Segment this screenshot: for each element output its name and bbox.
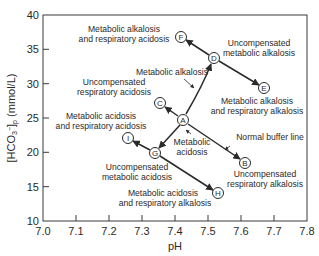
annotation-a-to-g-line2: acidosis xyxy=(176,147,207,157)
annotation-g-line2: metabolic acidosis xyxy=(102,172,172,182)
arrow-g-to-i xyxy=(133,141,150,150)
svg-text:C: C xyxy=(157,99,163,108)
x-tick-label: 7.0 xyxy=(35,225,50,237)
annotation-f-line2: and respiratory acidosis xyxy=(79,34,170,44)
y-tick-label: 35 xyxy=(27,43,39,55)
node-i: I xyxy=(123,133,134,144)
annotation-b-line1: Uncompensated xyxy=(234,169,297,179)
annotation-h-line1: Metabolic acidosis xyxy=(128,188,198,198)
x-tick-label: 7.7 xyxy=(266,225,281,237)
svg-text:E: E xyxy=(261,84,266,93)
y-tick-label: 15 xyxy=(27,181,39,193)
annotation-i-line2: and respiratory acidosis xyxy=(56,121,147,131)
node-h: H xyxy=(213,188,224,199)
svg-text:F: F xyxy=(179,33,184,42)
node-a: A xyxy=(178,115,189,126)
svg-text:B: B xyxy=(242,159,247,168)
x-tick-labels: 7.0 7.1 7.2 7.3 7.4 7.5 7.6 7.7 7.8 xyxy=(35,225,314,237)
node-b: B xyxy=(240,158,251,169)
node-c: C xyxy=(155,98,166,109)
arrow-d-to-e xyxy=(219,61,259,85)
node-f: F xyxy=(176,32,187,43)
annotation-g-line1: Uncompensated xyxy=(106,162,169,172)
x-axis-title: pH xyxy=(168,240,182,252)
y-axis-title: [HCO3−]p (mmol/L) xyxy=(5,74,19,163)
svg-text:D: D xyxy=(211,54,217,63)
annotation-a-to-d: Metabolic alkalosis xyxy=(136,67,208,77)
node-e: E xyxy=(259,83,270,94)
y-tick-label: 30 xyxy=(27,78,39,90)
y-axis xyxy=(43,49,49,186)
y-tick-label: 25 xyxy=(27,112,39,124)
x-tick-label: 7.3 xyxy=(134,225,149,237)
annotation-d-line1: Uncompensated xyxy=(228,38,291,48)
acid-base-diagram: 40 35 30 25 20 15 10 7.0 7.1 7.2 7.3 7.4… xyxy=(0,0,319,256)
annotation-a-to-g-line1: Metabolic xyxy=(174,137,211,147)
x-tick-label: 7.2 xyxy=(101,225,116,237)
y-tick-labels: 40 35 30 25 20 15 10 xyxy=(27,9,39,227)
annotation-d-line2: metabolic alkalosis xyxy=(223,48,295,58)
annotation-c-line2: respiratory acidosis xyxy=(77,87,151,97)
arrow-d-to-f xyxy=(186,40,209,55)
svg-text:H: H xyxy=(215,189,221,198)
arrow-a-to-c xyxy=(165,107,178,116)
annotation-b-line2: respiratory alkalosis xyxy=(227,179,303,189)
svg-text:A: A xyxy=(180,116,186,125)
node-d: D xyxy=(209,53,220,64)
x-tick-label: 7.6 xyxy=(233,225,248,237)
annotation-h-line2: and respiratory alkalosis xyxy=(119,198,212,208)
x-tick-label: 7.5 xyxy=(200,225,215,237)
annotation-e-line2: and respiratory alkalosis xyxy=(211,106,304,116)
x-tick-label: 7.1 xyxy=(68,225,83,237)
x-tick-label: 7.4 xyxy=(167,225,182,237)
annotation-i-line1: Metabolic acidosis xyxy=(66,111,136,121)
annotation-c-line1: Uncompensated xyxy=(83,77,146,87)
svg-text:G: G xyxy=(152,149,158,158)
svg-text:I: I xyxy=(127,134,129,143)
y-tick-label: 40 xyxy=(27,9,39,21)
node-g: G xyxy=(150,148,161,159)
y-tick-label: 20 xyxy=(27,146,39,158)
x-axis xyxy=(76,215,274,221)
annotation-e-line1: Metabolic alkalosis xyxy=(221,96,293,106)
annotation-normal-buffer-line: Normal buffer line xyxy=(236,132,304,142)
annotation-f-line1: Metabolic alkalosis xyxy=(88,24,160,34)
x-tick-label: 7.8 xyxy=(299,225,314,237)
